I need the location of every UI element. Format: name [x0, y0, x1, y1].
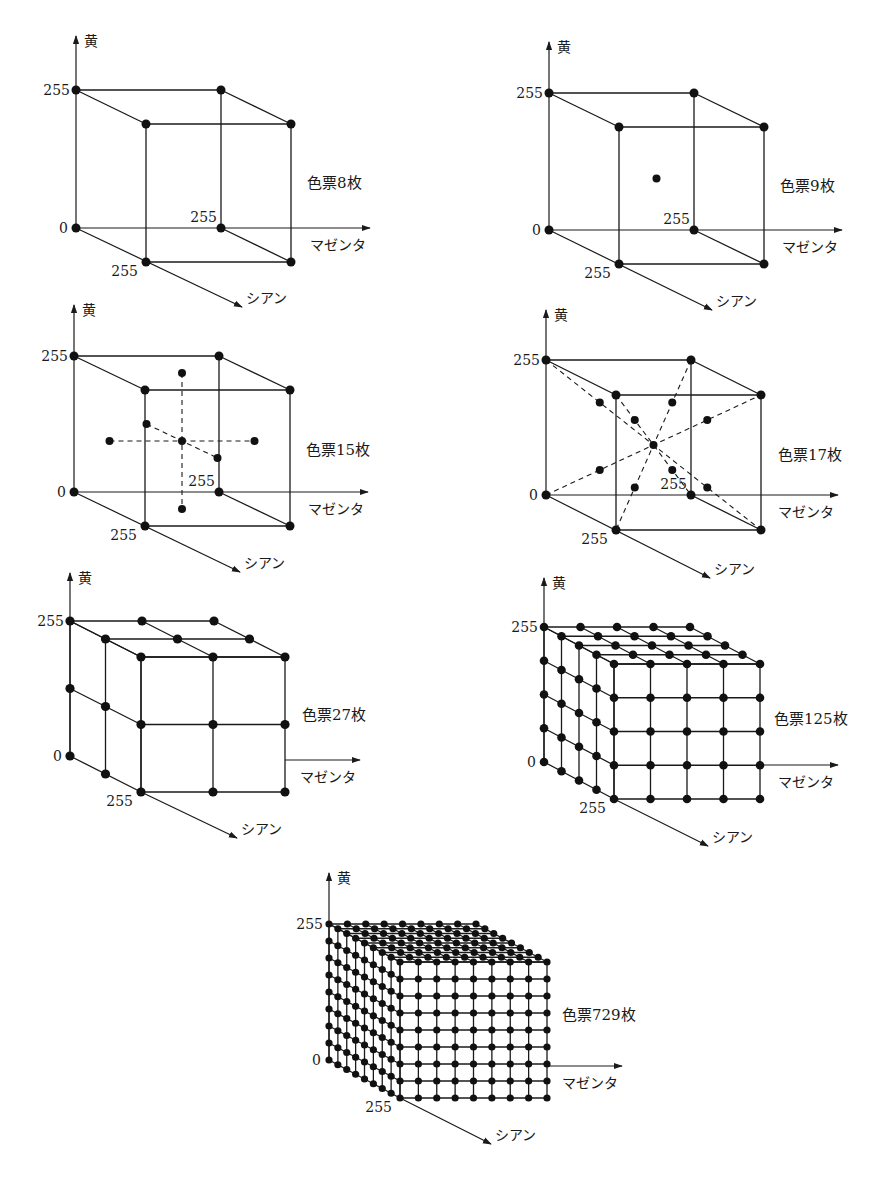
color-patch-dot: [361, 1075, 368, 1082]
color-patch-dot: [70, 488, 79, 497]
color-patch-dot: [353, 925, 360, 932]
origin-tick: 0: [529, 487, 538, 503]
color-patch-dot: [209, 616, 218, 625]
color-patch-dot: [72, 224, 81, 233]
color-patch-dot: [489, 949, 496, 956]
color-patch-dot: [397, 949, 404, 956]
color-patch-dot: [719, 660, 728, 669]
color-patch-dot: [683, 660, 692, 669]
patch-count-label: 色票8枚: [307, 174, 362, 192]
color-patch-dot: [592, 785, 601, 794]
color-patch-dot: [488, 1009, 495, 1016]
color-patch-dot: [683, 795, 692, 804]
color-patch-dot: [334, 1027, 341, 1034]
color-patch-dot: [380, 930, 387, 937]
panels: 黄マゼンタシアン2550255255色票8枚黄マゼンタシアン2550255255…: [37, 33, 847, 1144]
color-patch-dot: [208, 652, 217, 661]
color-patch-dot: [545, 226, 554, 235]
color-patch-dot: [507, 1043, 514, 1050]
yellow-max-tick: 255: [41, 348, 68, 364]
yellow-axis-label: 黄: [337, 870, 351, 886]
color-patch-dot: [543, 1026, 550, 1033]
color-patch-dot: [352, 1020, 359, 1027]
color-patch-dot: [526, 949, 533, 956]
color-patch-dot: [452, 1060, 459, 1067]
color-patch-dot: [415, 958, 422, 965]
cyan-max-tick: 255: [110, 527, 137, 543]
magenta-max-tick: 255: [188, 473, 215, 489]
color-patch-dot: [525, 1094, 532, 1101]
color-patch-dot: [472, 920, 479, 927]
cube-edge: [691, 360, 761, 395]
cyan-max-tick: 255: [584, 265, 611, 281]
color-patch-dot: [557, 632, 566, 641]
cyan-axis-label: シアン: [712, 829, 753, 845]
patch-count-label: 色票17枚: [778, 446, 842, 464]
color-patch-dot: [653, 175, 661, 183]
color-patch-dot: [396, 975, 403, 982]
color-patch-dot: [379, 939, 386, 946]
color-patch-dot: [142, 258, 151, 267]
yellow-axis-label: 黄: [82, 302, 96, 318]
color-patch-dot: [540, 623, 549, 632]
cube-edge: [219, 356, 290, 390]
color-patch-dot: [542, 356, 551, 365]
color-patch-dot: [417, 920, 424, 927]
color-patch-dot: [325, 937, 332, 944]
color-patch-dot: [631, 484, 639, 492]
color-patch-dot: [396, 1026, 403, 1033]
color-patch-dot: [280, 787, 289, 796]
color-patch-dot: [543, 1060, 550, 1067]
color-patch-dot: [610, 727, 619, 736]
color-patch-dot: [525, 1077, 532, 1084]
color-patch-dot: [245, 634, 254, 643]
color-patch-dot: [646, 660, 655, 669]
color-patch-dot: [65, 684, 74, 693]
color-patch-dot: [576, 623, 585, 632]
color-patch-dot: [452, 1077, 459, 1084]
color-patch-dot: [452, 1043, 459, 1050]
panel-patches-17: 黄マゼンタシアン2550255255色票17枚: [513, 307, 842, 578]
color-patch-dot: [462, 944, 469, 951]
color-patch-dot: [683, 727, 692, 736]
color-patch-dot: [396, 1043, 403, 1050]
color-patch-dot: [334, 925, 341, 932]
color-patch-dot: [454, 920, 461, 927]
color-patch-dot: [70, 352, 79, 361]
color-patch-dot: [343, 947, 350, 954]
color-patch-dot: [507, 975, 514, 982]
color-patch-dot: [370, 978, 377, 985]
cube-edge: [221, 90, 291, 124]
magenta-axis-label: マゼンタ: [308, 501, 364, 517]
color-patch-dot: [396, 1094, 403, 1101]
color-patch-dot: [389, 925, 396, 932]
color-patch-dot: [325, 1056, 332, 1063]
color-patch-dot: [575, 709, 584, 718]
color-patch-dot: [344, 920, 351, 927]
color-patch-dot: [388, 954, 395, 961]
color-patch-dot: [370, 944, 377, 951]
color-patch-dot: [668, 399, 676, 407]
color-patch-dot: [217, 86, 226, 95]
yellow-axis-label: 黄: [557, 39, 571, 55]
color-patch-dot: [361, 973, 368, 980]
color-patch-dot: [540, 758, 549, 767]
color-patch-dot: [592, 718, 601, 727]
color-patch-dot: [470, 1043, 477, 1050]
color-patch-dot: [470, 958, 477, 965]
color-patch-dot: [461, 954, 468, 961]
color-patch-dot: [370, 1080, 377, 1087]
color-patch-dot: [433, 992, 440, 999]
color-patch-dot: [575, 641, 584, 650]
color-patch-dot: [352, 1054, 359, 1061]
color-patch-dot: [488, 958, 495, 965]
color-patch-dot: [508, 939, 515, 946]
yellow-axis-label: 黄: [78, 570, 92, 586]
color-patch-dot: [352, 935, 359, 942]
cyan-max-tick: 255: [579, 800, 606, 816]
color-patch-dot: [516, 954, 523, 961]
cube-edge: [74, 356, 145, 390]
color-patch-dot: [137, 616, 146, 625]
color-patch-dot: [470, 975, 477, 982]
color-patch-dot: [433, 975, 440, 982]
